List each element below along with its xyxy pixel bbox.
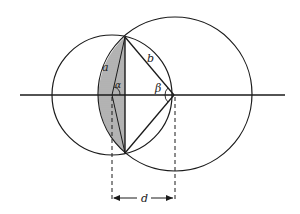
label-a: a xyxy=(102,61,109,74)
label-alpha: α xyxy=(115,80,121,90)
diagram-canvas: a α b β d xyxy=(0,0,300,214)
radius-large-bottom xyxy=(125,95,174,153)
radius-large-top xyxy=(125,37,174,95)
angle-beta-arc xyxy=(165,88,168,95)
label-beta: β xyxy=(154,82,161,95)
label-d: d xyxy=(141,192,148,205)
label-b: b xyxy=(147,52,154,65)
angle-beta-arc-lower xyxy=(165,95,168,102)
